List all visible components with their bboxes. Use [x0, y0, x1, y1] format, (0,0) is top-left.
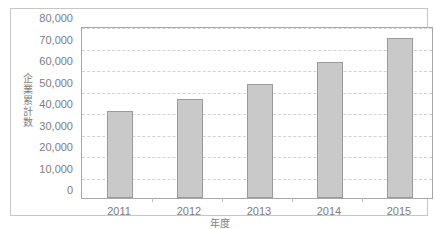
bar-2012[interactable]: [177, 99, 203, 198]
clipped-header-strip: [0, 0, 432, 7]
y-axis-tick-label: 0: [15, 185, 73, 196]
bar-2014[interactable]: [317, 62, 343, 199]
y-axis-tick-label: 80,000: [15, 13, 73, 24]
gridline: [82, 71, 432, 72]
x-axis-tick-label-2012: 2012: [154, 205, 224, 217]
x-axis-tick-mark: [292, 198, 293, 202]
y-axis-tick-label: 50,000: [15, 78, 73, 89]
y-axis-tick-label: 70,000: [15, 35, 73, 46]
x-axis-tick-label-2015: 2015: [364, 205, 434, 217]
x-axis-title: 年度: [11, 218, 429, 229]
bar-2013[interactable]: [247, 84, 273, 198]
x-axis-tick-label-2013: 2013: [224, 205, 294, 217]
y-axis-tick-label: 40,000: [15, 99, 73, 110]
y-axis-tick-label: 60,000: [15, 56, 73, 67]
x-axis-tick-mark: [362, 198, 363, 202]
y-axis-tick-label: 20,000: [15, 142, 73, 153]
figure-frame: 企 業 累 計 数 80,000 70,000 60,000 50,000 40…: [10, 8, 428, 216]
gridline: [82, 28, 432, 29]
bar-2011[interactable]: [107, 111, 133, 198]
y-axis-tick-label: 10,000: [15, 164, 73, 175]
bar-2015[interactable]: [387, 38, 413, 198]
gridline: [82, 50, 432, 51]
x-axis-tick-mark: [222, 198, 223, 202]
x-axis-tick-label-2011: 2011: [84, 205, 154, 217]
x-axis-tick-label-2014: 2014: [294, 205, 364, 217]
y-axis-tick-label: 30,000: [15, 121, 73, 132]
plot-area: [81, 27, 433, 199]
x-axis-tick-mark: [152, 198, 153, 202]
